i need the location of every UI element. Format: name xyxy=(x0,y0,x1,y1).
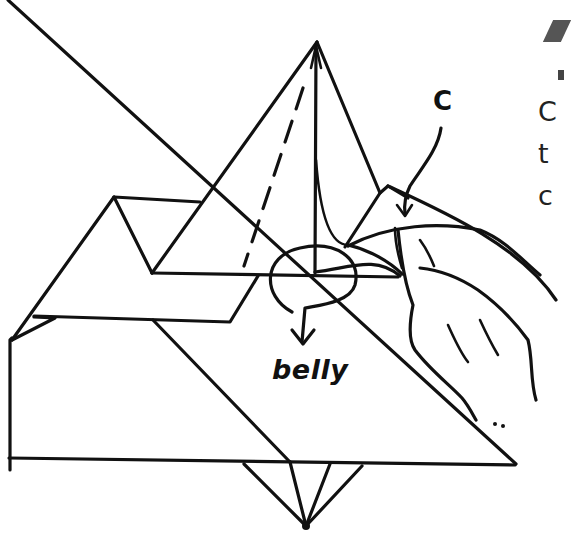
curved-arrow-c-icon xyxy=(397,128,441,216)
left-flap xyxy=(12,197,398,462)
side-text-line-3: c xyxy=(538,180,553,211)
belly-label: belly xyxy=(272,354,348,385)
side-text-line-1: C xyxy=(538,96,557,127)
point-c-label: C xyxy=(433,86,452,116)
step-text-fragment xyxy=(558,70,564,80)
hand-icon xyxy=(398,230,536,428)
dashed-fold-line xyxy=(244,88,303,266)
pyramid-flap xyxy=(152,42,380,273)
side-text-line-2: t xyxy=(538,138,549,169)
bottom-triangle-fan xyxy=(244,462,362,530)
right-curved-flap xyxy=(345,186,556,300)
belly-flap xyxy=(315,245,402,276)
rotation-arrow-icon xyxy=(270,246,356,344)
base-rectangle xyxy=(8,0,516,470)
